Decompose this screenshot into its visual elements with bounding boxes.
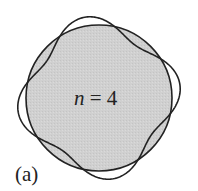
mode-label-variable: n <box>74 86 85 110</box>
panel-label: (a) <box>15 162 38 186</box>
mode-label-value: = 4 <box>85 86 118 110</box>
diagram-canvas: n = 4 (a) <box>0 0 198 191</box>
figure: n = 4 (a) <box>0 0 198 191</box>
mode-label: n = 4 <box>74 86 118 110</box>
